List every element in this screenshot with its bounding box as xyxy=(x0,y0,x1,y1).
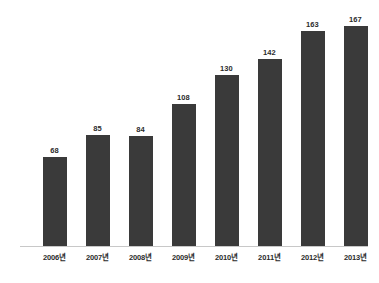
bar-group: 167 xyxy=(334,12,377,247)
bar-rect[interactable] xyxy=(344,26,368,247)
bar-group: 108 xyxy=(162,12,205,247)
bar-group: 68 xyxy=(33,12,76,247)
x-axis-tick-label: 2007년 xyxy=(76,252,119,268)
x-axis-tick-label: 2011년 xyxy=(248,252,291,268)
x-axis-tick-label: 2013년 xyxy=(334,252,377,268)
bar-rect[interactable] xyxy=(172,104,196,247)
bar-group: 85 xyxy=(76,12,119,247)
bar-value-label: 167 xyxy=(349,15,362,24)
x-axis-tick-label: 2006년 xyxy=(33,252,76,268)
x-axis-baseline xyxy=(20,246,368,247)
bar-chart-figure: 688584108130142163167 2006년2007년2008년200… xyxy=(0,0,379,283)
bars-container: 688584108130142163167 xyxy=(20,12,368,247)
bar-rect[interactable] xyxy=(215,75,239,247)
bar-value-label: 85 xyxy=(93,124,102,133)
bar-value-label: 163 xyxy=(306,20,319,29)
plot-area: 688584108130142163167 xyxy=(20,12,368,247)
bar-rect[interactable] xyxy=(301,31,325,247)
bar-group: 142 xyxy=(248,12,291,247)
bar-rect[interactable] xyxy=(129,136,153,247)
bar-group: 84 xyxy=(119,12,162,247)
bar-value-label: 68 xyxy=(50,146,59,155)
x-axis-tick-label: 2008년 xyxy=(119,252,162,268)
bar-rect[interactable] xyxy=(43,157,67,247)
x-axis-category-labels: 2006년2007년2008년2009년2010년2011년2012년2013년 xyxy=(20,252,368,268)
bar-rect[interactable] xyxy=(258,59,282,247)
bar-value-label: 84 xyxy=(136,125,145,134)
bar-value-label: 130 xyxy=(220,64,233,73)
x-axis-tick-label: 2012년 xyxy=(291,252,334,268)
bar-rect[interactable] xyxy=(86,135,110,247)
bar-group: 163 xyxy=(291,12,334,247)
x-axis-tick-label: 2010년 xyxy=(205,252,248,268)
bar-value-label: 142 xyxy=(263,48,276,57)
x-axis-tick-label: 2009년 xyxy=(162,252,205,268)
bar-value-label: 108 xyxy=(177,93,190,102)
bar-group: 130 xyxy=(205,12,248,247)
